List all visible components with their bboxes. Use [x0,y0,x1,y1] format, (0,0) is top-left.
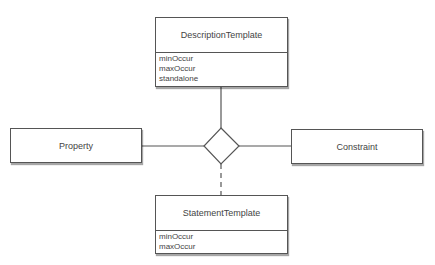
attribute-item: minOccur [159,232,284,242]
entity-title: DescriptionTemplate [156,18,287,52]
relationship-diamond[interactable] [204,128,239,164]
attribute-list: minOccur maxOccur standalone [156,52,287,85]
description-template-entity[interactable]: DescriptionTemplate minOccur maxOccur st… [155,17,288,87]
attribute-item: maxOccur [159,64,284,74]
attribute-list: minOccur maxOccur [156,230,287,253]
entity-title: StatementTemplate [156,196,287,230]
statement-template-entity[interactable]: StatementTemplate minOccur maxOccur [155,195,288,254]
attribute-item: minOccur [159,54,284,64]
constraint-entity[interactable]: Constraint [291,129,423,164]
entity-title: Property [59,141,93,151]
attribute-item: standalone [159,74,284,84]
attribute-item: maxOccur [159,242,284,252]
entity-title: Constraint [336,142,377,152]
property-entity[interactable]: Property [10,128,142,163]
